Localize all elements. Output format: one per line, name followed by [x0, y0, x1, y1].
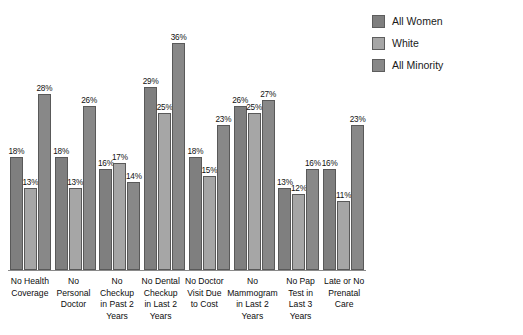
bar — [24, 188, 37, 270]
bar — [323, 169, 336, 270]
legend-item-all-minority: All Minority — [372, 54, 514, 76]
bar-item: 13% — [278, 8, 291, 270]
bar — [292, 194, 305, 270]
bar — [337, 201, 350, 270]
legend-label-all-women: All Women — [392, 15, 443, 27]
bar-item: 28% — [38, 8, 51, 270]
bar-value-label: 15% — [201, 166, 217, 175]
category-label: No Doctor Visit Due to Cost — [183, 276, 227, 322]
bar-value-label: 36% — [171, 33, 187, 42]
bar-group: 13%12%16% — [277, 8, 322, 270]
bar — [262, 100, 275, 270]
bar-group: 18%15%23% — [187, 8, 232, 270]
bar-item: 16% — [306, 8, 319, 270]
bar — [10, 157, 23, 270]
bar-value-label: 25% — [157, 103, 173, 112]
category-label: No Mammogram in Last 2 Years — [226, 276, 279, 322]
legend-item-white: White — [372, 32, 514, 54]
bar-item: 29% — [144, 8, 157, 270]
bar — [306, 169, 319, 270]
bar — [203, 176, 216, 271]
bar-item: 16% — [323, 8, 336, 270]
bar-value-label: 12% — [291, 184, 307, 193]
bar-groups: 18%13%28%18%13%26%16%17%14%29%25%36%18%1… — [8, 8, 366, 270]
bar-item: 18% — [10, 8, 23, 270]
bar-value-label: 27% — [260, 90, 276, 99]
bar-value-label: 17% — [112, 153, 128, 162]
bar-value-label: 25% — [246, 103, 262, 112]
bar-group: 29%25%36% — [142, 8, 187, 270]
bar-item: 27% — [262, 8, 275, 270]
bar — [248, 113, 261, 271]
bar-group: 18%13%28% — [8, 8, 53, 270]
legend-label-all-minority: All Minority — [392, 59, 443, 71]
bar-item: 25% — [158, 8, 171, 270]
bar-value-label: 28% — [36, 84, 52, 93]
plot-area: 18%13%28%18%13%26%16%17%14%29%25%36%18%1… — [8, 8, 366, 271]
bar-item: 12% — [292, 8, 305, 270]
category-label: No Health Coverage — [8, 276, 52, 322]
bar — [69, 188, 82, 270]
bar — [127, 182, 140, 270]
bar — [113, 163, 126, 270]
bar-item: 13% — [69, 8, 82, 270]
x-axis-category-labels: No Health CoverageNo Personal DoctorNo C… — [8, 276, 366, 322]
category-label: Late or No Prenatal Care — [322, 276, 366, 322]
bar-item: 25% — [248, 8, 261, 270]
legend-swatch-all-women — [372, 15, 385, 28]
bar-group: 18%13%26% — [53, 8, 98, 270]
bar-item: 16% — [99, 8, 112, 270]
bar-value-label: 18% — [8, 147, 24, 156]
category-label: No Checkup in Past 2 Years — [95, 276, 139, 322]
bar — [278, 188, 291, 270]
legend-label-white: White — [392, 37, 419, 49]
bar — [189, 157, 202, 270]
bar-item: 18% — [55, 8, 68, 270]
bar-value-label: 16% — [322, 159, 338, 168]
bar-item: 13% — [24, 8, 37, 270]
bar — [158, 113, 171, 271]
bar-value-label: 18% — [53, 147, 69, 156]
bar-item: 17% — [113, 8, 126, 270]
bar — [234, 106, 247, 270]
bar — [172, 43, 185, 270]
bar — [55, 157, 68, 270]
legend-item-all-women: All Women — [372, 10, 514, 32]
bar-item: 36% — [172, 8, 185, 270]
bar — [38, 94, 51, 270]
bar-item: 18% — [189, 8, 202, 270]
bar — [83, 106, 96, 270]
bar — [351, 125, 364, 270]
legend-swatch-white — [372, 37, 385, 50]
bar-value-label: 18% — [187, 147, 203, 156]
bar-item: 26% — [83, 8, 96, 270]
category-label: No Dental Checkup in Last 2 Years — [139, 276, 183, 322]
bar-group: 26%25%27% — [232, 8, 277, 270]
bar-value-label: 29% — [143, 77, 159, 86]
bar — [99, 169, 112, 270]
bar — [144, 87, 157, 270]
bar-item: 23% — [217, 8, 230, 270]
bar-chart: All Women White All Minority 18%13%28%18… — [0, 0, 523, 335]
bar-value-label: 13% — [22, 178, 38, 187]
bar-value-label: 26% — [81, 96, 97, 105]
bar-item: 23% — [351, 8, 364, 270]
bar-item: 14% — [127, 8, 140, 270]
bar-value-label: 23% — [350, 115, 366, 124]
bar — [217, 125, 230, 270]
category-label: No Personal Doctor — [52, 276, 96, 322]
category-label: No Pap Test in Last 3 Years — [279, 276, 323, 322]
bar-value-label: 11% — [336, 191, 351, 200]
bar-item: 15% — [203, 8, 216, 270]
bar-value-label: 14% — [126, 172, 142, 181]
bar-value-label: 16% — [305, 159, 321, 168]
bar-item: 11% — [337, 8, 350, 270]
chart-legend: All Women White All Minority — [372, 10, 514, 76]
bar-value-label: 23% — [215, 115, 231, 124]
bar-value-label: 13% — [67, 178, 83, 187]
legend-swatch-all-minority — [372, 59, 385, 72]
x-axis-line — [8, 270, 366, 271]
bar-item: 26% — [234, 8, 247, 270]
bar-group: 16%11%23% — [321, 8, 366, 270]
bar-group: 16%17%14% — [98, 8, 143, 270]
